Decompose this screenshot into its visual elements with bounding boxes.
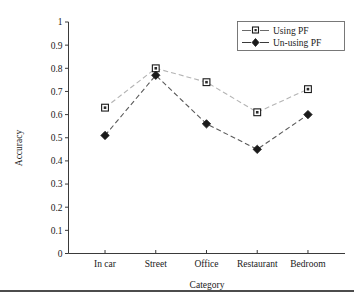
x-tick-label: Bedroom	[290, 259, 326, 269]
y-tick-label: 1	[58, 17, 63, 27]
x-axis-title: Category	[190, 280, 225, 290]
y-tick-label: 0.8	[51, 64, 63, 74]
y-tick-label: 0.2	[51, 203, 63, 213]
data-point-using-pf-core	[205, 81, 208, 84]
x-tick-label: Street	[145, 259, 168, 269]
y-tick-label: 0.5	[51, 133, 63, 143]
y-tick-label: 0.7	[51, 87, 63, 97]
y-tick-label: 0.9	[51, 41, 63, 51]
data-point-using-pf-core	[307, 88, 310, 91]
data-point-using-pf-core	[154, 67, 157, 70]
y-tick-label: 0.6	[51, 110, 63, 120]
chart-figure: 10.90.80.70.60.50.40.30.20.10 In carStre…	[0, 0, 354, 304]
x-tick-label: Office	[194, 259, 218, 269]
x-tick-label: In car	[94, 259, 117, 269]
data-point-using-pf-core	[256, 111, 259, 114]
y-tick-label: 0.1	[51, 226, 63, 236]
y-axis-title: Accuracy	[14, 130, 24, 167]
y-tick-label: 0.4	[51, 156, 63, 166]
legend-label-using-pf: Using PF	[273, 26, 309, 36]
data-point-using-pf-core	[104, 106, 107, 109]
y-tick-label: 0	[58, 249, 63, 259]
y-tick-label: 0.3	[51, 179, 63, 189]
open-square-marker-core	[255, 29, 257, 31]
chart-legend: Using PF Un-using PF	[238, 22, 345, 51]
line-chart: 10.90.80.70.60.50.40.30.20.10 In carStre…	[0, 0, 354, 304]
legend-label-un-using-pf: Un-using PF	[273, 38, 321, 48]
x-tick-label: Restaurant	[237, 259, 278, 269]
